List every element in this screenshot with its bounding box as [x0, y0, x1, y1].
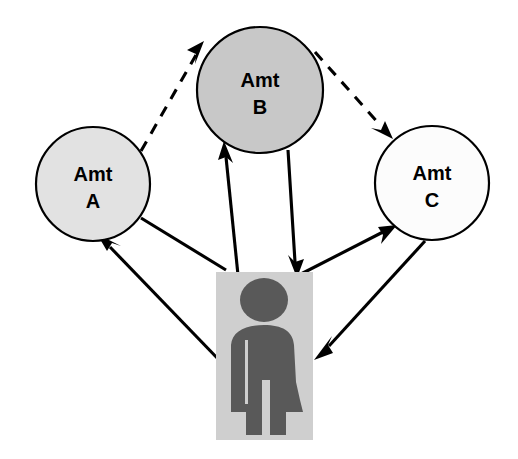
node-amt-b[interactable]: Amt B	[197, 27, 323, 153]
edge-line-a-to-b	[141, 55, 196, 151]
amt-a-label-line2: A	[86, 190, 100, 212]
amt-b-label-line1: Amt	[241, 69, 280, 91]
diagram-canvas: Amt A Amt B Amt C	[0, 0, 518, 459]
edge-line-b-to-citizen	[288, 150, 295, 262]
citizen-node[interactable]	[216, 272, 313, 440]
edge-line-c-to-citizen	[329, 241, 425, 346]
edge-line-citizen-to-c	[299, 232, 383, 275]
amt-c-label-line1: Amt	[413, 162, 452, 184]
arrowhead-b-to-c	[371, 121, 393, 139]
person-head	[240, 278, 288, 322]
edge-citizen-to-amt-c	[299, 225, 397, 275]
edge-amt-a-to-amt-b	[141, 41, 204, 151]
node-amt-c[interactable]: Amt C	[375, 126, 489, 240]
node-amt-a[interactable]: Amt A	[36, 127, 150, 241]
amt-a-label-line1: Amt	[74, 163, 113, 185]
arrowhead-a-to-b	[187, 41, 204, 64]
edge-amt-b-to-citizen	[288, 150, 304, 278]
edge-amt-b-to-amt-c	[315, 52, 393, 139]
person-arm-notch	[245, 340, 248, 404]
edge-citizen-to-amt-b	[218, 141, 238, 275]
amt-b-label-line2: B	[253, 96, 267, 118]
amt-c-label-line2: C	[425, 189, 439, 211]
edge-line-a-to-citizen	[141, 218, 226, 270]
edge-line-citizen-to-b	[226, 157, 238, 275]
arrowhead-c-to-citizen	[314, 336, 333, 360]
edge-citizen-to-amt-a	[97, 234, 222, 363]
edge-line-citizen-to-a	[110, 247, 222, 363]
diagram-svg: Amt A Amt B Amt C	[0, 0, 518, 459]
edge-line-b-to-c	[315, 52, 381, 126]
